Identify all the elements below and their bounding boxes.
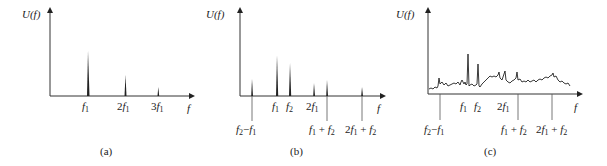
x-axis-label: f — [187, 102, 192, 114]
svg-text:U(f): U(f) — [396, 8, 415, 21]
svg-text:f1: f1 — [460, 100, 467, 114]
spectrum-figure: U(f) f f1 2f1 3f1 (a) U(f) f f1 f2 2f1 f… — [0, 0, 607, 166]
svg-text:2f1 + f2: 2f1 + f2 — [345, 123, 376, 137]
y-axis-label: U(f) — [22, 8, 41, 21]
svg-text:2f1: 2f1 — [117, 100, 130, 114]
panel-a: U(f) f f1 2f1 3f1 (a) — [22, 8, 192, 158]
svg-text:f: f — [574, 101, 579, 113]
panel-b: U(f) f f1 f2 2f1 f2−f1 f1 + f2 2f1 + f2 … — [206, 8, 383, 158]
svg-text:2f1: 2f1 — [306, 100, 319, 114]
svg-text:f2−f1: f2−f1 — [236, 123, 256, 137]
caption-b: (b) — [290, 145, 303, 158]
svg-text:2f1: 2f1 — [497, 100, 510, 114]
caption-c: (c) — [484, 145, 497, 158]
svg-text:f1 + f2: f1 + f2 — [501, 123, 527, 137]
caption-a: (a) — [100, 145, 113, 158]
svg-text:f1: f1 — [272, 100, 279, 114]
panel-c: U(f) f f1 f2 2f1 f2−f1 f1 + f2 2f1 + f2 … — [396, 8, 580, 158]
svg-text:f2: f2 — [474, 100, 481, 114]
svg-text:f1: f1 — [82, 100, 89, 114]
svg-text:f2−f1: f2−f1 — [424, 123, 444, 137]
svg-text:f1 + f2: f1 + f2 — [309, 123, 335, 137]
svg-text:2f1 + f2: 2f1 + f2 — [536, 123, 567, 137]
svg-text:U(f): U(f) — [206, 8, 225, 21]
svg-text:3f1: 3f1 — [151, 100, 164, 114]
svg-text:f: f — [377, 102, 382, 114]
svg-text:f2: f2 — [286, 100, 293, 114]
